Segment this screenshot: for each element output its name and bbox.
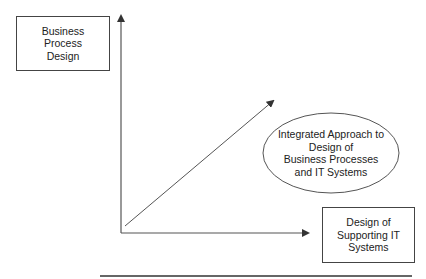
node-label-line: Supporting IT [337, 229, 400, 242]
node-label-line: Business [42, 25, 85, 38]
business-process-design-box: Business Process Design [16, 16, 110, 71]
supporting-it-systems-box: Design of Supporting IT Systems [322, 207, 415, 263]
node-label-line: Business Processes [284, 153, 379, 166]
integrated-approach-label: Integrated Approach to Design of Busines… [263, 122, 399, 184]
node-label-line: Design of [346, 216, 390, 229]
node-label-line: Integrated Approach to [278, 128, 384, 141]
node-label-line: Systems [348, 241, 388, 254]
node-label-line: and IT Systems [295, 166, 368, 179]
node-label-line: Design of [309, 141, 353, 154]
diagonal-arrow [125, 101, 273, 226]
node-label-line: Design [47, 50, 80, 63]
node-label-line: Process [44, 37, 82, 50]
